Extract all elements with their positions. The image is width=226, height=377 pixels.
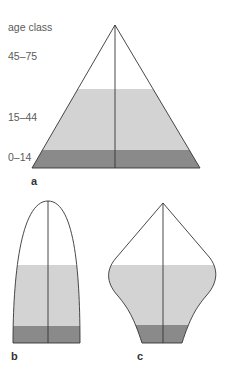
figure-label-a: a bbox=[31, 176, 37, 187]
age-structure-diagrams bbox=[0, 0, 226, 377]
figure-label-c: c bbox=[137, 351, 143, 362]
band-0-14 bbox=[0, 326, 100, 343]
figure-label-b: b bbox=[11, 351, 18, 362]
band-15-44 bbox=[0, 89, 226, 150]
pyramid-a bbox=[0, 25, 226, 168]
band-15-44 bbox=[0, 265, 100, 326]
pyramid-c bbox=[100, 203, 226, 343]
pyramid-b bbox=[0, 201, 100, 343]
